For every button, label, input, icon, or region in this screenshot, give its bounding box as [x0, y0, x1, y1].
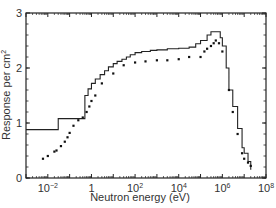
- data-point: [47, 155, 49, 157]
- data-point: [250, 165, 252, 167]
- chart: 0123 10−21102104106108 Neutron energy (e…: [0, 0, 276, 208]
- response-step-line: [26, 32, 251, 170]
- y-axis-label: Response per cm2: [0, 50, 12, 140]
- chart-svg: 0123 10−21102104106108 Neutron energy (e…: [0, 0, 276, 208]
- scatter-series: [42, 39, 252, 167]
- y-tick-label: 3: [16, 7, 22, 19]
- data-point: [101, 82, 103, 84]
- data-point: [69, 132, 71, 134]
- data-point: [247, 162, 249, 164]
- data-point: [77, 119, 79, 121]
- data-point: [221, 50, 223, 52]
- data-point: [64, 141, 66, 143]
- y-tick-label: 1: [16, 117, 22, 129]
- data-point: [88, 105, 90, 107]
- x-axis-label: Neutron energy (eV): [90, 191, 190, 203]
- data-point: [228, 89, 230, 91]
- data-point: [166, 59, 168, 61]
- x-tick-label: 108: [258, 182, 274, 194]
- data-point: [60, 145, 62, 147]
- y-tick-label: 0: [16, 172, 22, 184]
- data-point: [213, 42, 215, 44]
- y-tick-label: 2: [16, 62, 22, 74]
- data-point: [72, 125, 74, 127]
- data-point: [156, 59, 158, 61]
- data-point: [55, 149, 57, 151]
- data-point: [90, 100, 92, 102]
- x-tick-label: 10−2: [38, 182, 58, 194]
- data-point: [188, 56, 190, 58]
- data-point: [232, 111, 234, 113]
- data-point: [94, 94, 96, 96]
- data-point: [215, 39, 217, 41]
- data-point: [42, 158, 44, 160]
- data-point: [123, 64, 125, 66]
- data-point: [218, 42, 220, 44]
- data-point: [203, 50, 205, 52]
- data-point: [112, 72, 114, 74]
- data-point: [178, 58, 180, 60]
- y-axis: 0123: [16, 7, 266, 184]
- data-point: [241, 152, 243, 154]
- data-point: [86, 111, 88, 113]
- data-point: [210, 45, 212, 47]
- step-line-series: [26, 32, 251, 170]
- data-point: [206, 48, 208, 50]
- data-point: [53, 151, 55, 153]
- x-axis: 10−21102104106108: [26, 13, 274, 194]
- data-point: [237, 133, 239, 135]
- plot-frame: [26, 13, 266, 178]
- x-tick-label: 106: [214, 182, 230, 194]
- data-point: [66, 136, 68, 138]
- data-point: [82, 116, 84, 118]
- data-point: [134, 61, 136, 63]
- data-point: [199, 56, 201, 58]
- data-point: [144, 60, 146, 62]
- data-point: [243, 158, 245, 160]
